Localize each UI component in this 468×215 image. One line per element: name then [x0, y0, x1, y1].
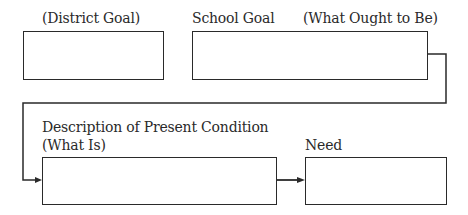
connector-arrows — [0, 0, 468, 215]
feedback-connector-line — [23, 54, 446, 180]
arrowhead-icon — [35, 177, 42, 183]
arrowhead-icon — [297, 177, 305, 183]
